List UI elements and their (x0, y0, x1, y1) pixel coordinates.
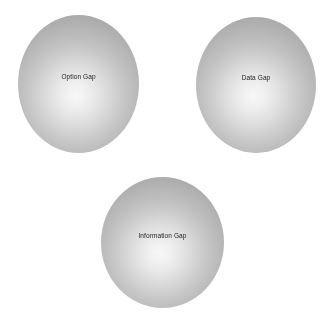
sphere-data-gap[interactable]: Data Gap (196, 17, 316, 153)
sphere-label-information-gap: Information Gap (101, 232, 224, 240)
diagram-canvas: Option Gap Data Gap Information Gap (0, 0, 328, 318)
sphere-label-data-gap: Data Gap (196, 74, 316, 82)
sphere-information-gap[interactable]: Information Gap (101, 177, 224, 308)
sphere-option-gap[interactable]: Option Gap (18, 15, 139, 153)
sphere-label-option-gap: Option Gap (18, 73, 139, 81)
